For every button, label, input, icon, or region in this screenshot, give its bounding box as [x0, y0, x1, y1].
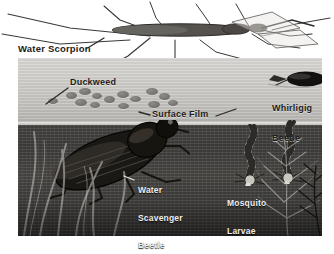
label-water-scavenger-beetle: Water Scavenger Beetle: [138, 168, 183, 254]
label-water-scorpion: Water Scorpion: [18, 44, 91, 54]
label-mosquito-larvae: Mosquito Larvae: [227, 181, 266, 254]
label-surface-film: Surface Film: [152, 110, 208, 120]
label-whirligig-line2: Beetle: [272, 134, 312, 144]
label-whirligig-beetle: Whirligig Beetle: [272, 85, 312, 163]
label-scavenger-line2: Scavenger: [138, 214, 183, 223]
label-duckweed: Duckweed: [70, 78, 116, 88]
label-mosquito-line1: Mosquito: [227, 199, 266, 208]
label-whirligig-line1: Whirligig: [272, 104, 312, 114]
label-scavenger-line3: Beetle: [138, 241, 183, 250]
label-mosquito-line2: Larvae: [227, 227, 266, 236]
label-scavenger-line1: Water: [138, 186, 183, 195]
